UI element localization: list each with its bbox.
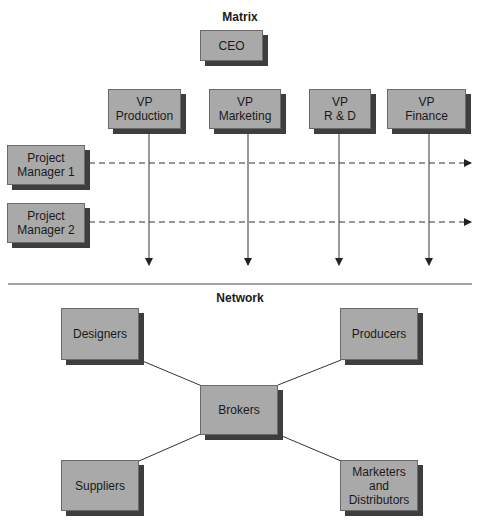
connector-lines — [0, 0, 481, 527]
ceo-label: CEO — [218, 39, 244, 53]
network-title: Network — [200, 291, 280, 305]
suppliers-label: Suppliers — [75, 479, 125, 493]
producers-label: Producers — [352, 327, 407, 341]
vp-marketing-label: VP Marketing — [219, 95, 272, 123]
marketers-distributors-label: Marketers and Distributors — [349, 465, 410, 507]
matrix-title: Matrix — [200, 10, 280, 24]
suppliers-box: Suppliers — [61, 460, 139, 511]
project-manager-2-label: Project Manager 2 — [17, 209, 74, 237]
designers-box: Designers — [61, 308, 139, 360]
project-manager-1-box: Project Manager 1 — [7, 145, 85, 185]
vp-finance-box: VP Finance — [387, 89, 466, 129]
project-manager-2-box: Project Manager 2 — [7, 203, 85, 243]
vp-production-box: VP Production — [108, 89, 181, 129]
brokers-box: Brokers — [200, 385, 278, 435]
vp-rd-box: VP R & D — [309, 89, 371, 129]
vp-rd-label: VP R & D — [324, 95, 356, 123]
producers-box: Producers — [340, 308, 418, 360]
vp-marketing-box: VP Marketing — [209, 89, 281, 129]
project-manager-1-label: Project Manager 1 — [17, 151, 74, 179]
vp-finance-label: VP Finance — [405, 95, 448, 123]
designers-label: Designers — [73, 327, 127, 341]
brokers-label: Brokers — [218, 403, 259, 417]
ceo-box: CEO — [200, 30, 263, 61]
marketers-distributors-box: Marketers and Distributors — [340, 460, 418, 511]
vp-production-label: VP Production — [116, 95, 173, 123]
